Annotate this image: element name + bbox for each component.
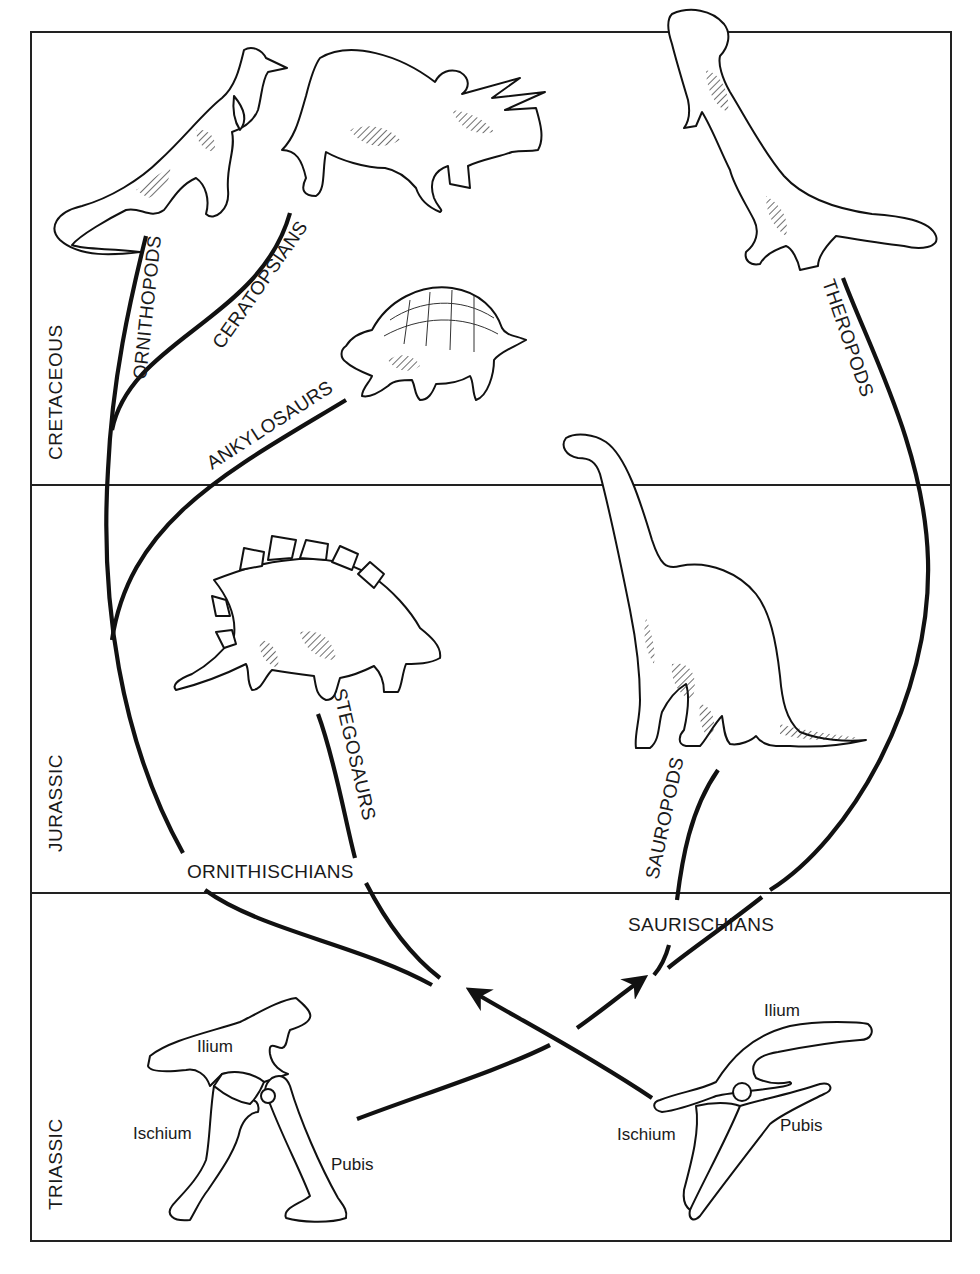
period-label-cretaceous: CRETACEOUS (45, 324, 66, 460)
ankylosaur-illustration (342, 287, 527, 400)
label-stegosaurs: STEGOSAURS (329, 686, 380, 822)
saurischian-pubis-label: Pubis (780, 1116, 823, 1135)
label-saurischians: SAURISCHIANS (628, 914, 774, 935)
ornithischian-ischium-label: Ischium (133, 1124, 192, 1143)
branch-sauropods-lower (654, 945, 669, 975)
ornithischian-pelvis: Ilium Ischium Pubis (133, 998, 374, 1222)
arrow-saurischian-origin-lower (357, 1045, 550, 1119)
diagram-canvas: CRETACEOUS JURASSIC TRIASSIC ORNITHOPODS… (0, 0, 980, 1274)
dinosaur-evolution-diagram: CRETACEOUS JURASSIC TRIASSIC ORNITHOPODS… (0, 0, 980, 1274)
ornithischian-pubis (265, 1076, 346, 1222)
saurischian-pelvis: Ilium Ischium Pubis (617, 1001, 872, 1219)
label-ornithischians: ORNITHISCHIANS (187, 861, 354, 882)
ornithischian-ilium-label: Ilium (197, 1037, 233, 1056)
label-ceratopsians: CERATOPSIANS (208, 217, 312, 353)
saurischian-ilium-label: Ilium (764, 1001, 800, 1020)
arrow-ornithischian-origin (470, 990, 652, 1098)
ceratopsian-illustration (282, 50, 545, 212)
label-ankylosaurs: ANKYLOSAURS (203, 376, 337, 473)
branch-sauropods (677, 770, 718, 900)
hip-to-group-arrows (357, 978, 652, 1119)
stegosaur-illustration (175, 536, 441, 700)
saurischian-ilium (654, 1022, 871, 1112)
ornithopod-illustration (55, 48, 287, 254)
sauropod-illustration (564, 435, 866, 748)
arrow-saurischian-origin-upper (577, 978, 644, 1028)
saurischian-ischium-label: Ischium (617, 1125, 676, 1144)
ornithischian-pubis-label: Pubis (331, 1155, 374, 1174)
branch-stegosaurs-lower (366, 883, 440, 978)
theropod-illustration (668, 10, 936, 270)
period-label-triassic: TRIASSIC (45, 1118, 66, 1210)
period-label-jurassic: JURASSIC (45, 754, 66, 852)
ornithischian-ischium (170, 1086, 259, 1220)
